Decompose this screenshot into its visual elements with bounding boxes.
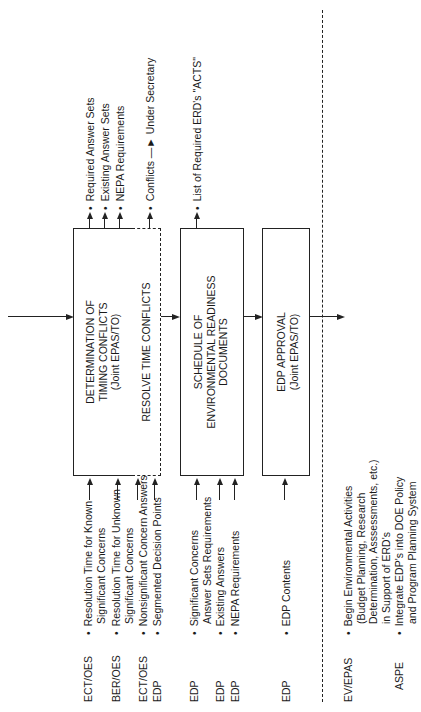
arrow-head: [87, 212, 93, 219]
org-label: EDP: [151, 680, 164, 702]
output-existing-answer-sets: Existing Answer Sets: [99, 103, 112, 210]
input-item: Resolution Time for Unknown Significant …: [110, 489, 135, 635]
arrow-head: [152, 478, 158, 485]
input-item: Nonsignificant Concern Answers: [137, 475, 150, 635]
connector-approval-results: [310, 316, 338, 317]
arrow-head: [232, 478, 238, 485]
arrow-head: [172, 314, 180, 320]
input-item: Significant Concerns Answer Sets Require…: [188, 497, 213, 635]
org-label: ECT/OES: [137, 656, 150, 702]
arrow-head: [102, 212, 108, 219]
result-integrate-edps: Integrate EDP's into DOE Policy and Prog…: [393, 477, 418, 635]
arrow-head: [194, 478, 200, 485]
org-label: EDP: [188, 680, 201, 702]
output-nepa-requirements: NEPA Requirements: [114, 106, 127, 210]
input-item: NEPA Requirements: [229, 531, 242, 635]
input-item: EDP Contents: [280, 560, 293, 635]
org-label: BER/OES: [110, 655, 123, 702]
org-label: ECT/OES: [82, 656, 95, 702]
arrow-head: [117, 212, 123, 219]
org-label: EDP: [280, 680, 293, 702]
approval-label: EDP APPROVAL (Joint EPAS/TO): [275, 252, 300, 452]
input-item: Existing Answers: [214, 547, 227, 635]
arrow-head: [337, 314, 345, 320]
separator-dashed-line: [322, 10, 323, 702]
result-org-label: EV/EPAS: [342, 658, 355, 702]
determination-label: DETERMINATION OF TIMING CONFLICTS (Joint…: [84, 252, 122, 452]
output-required-answer-sets: Required Answer Sets: [84, 97, 97, 210]
result-org-label: ASPE: [393, 662, 406, 690]
result-begin-activities: Begin Environmental Activities (Budget P…: [342, 459, 392, 635]
resolve-label: RESOLVE TIME CONFLICTS: [140, 252, 153, 452]
schedule-label: SCHEDULE OF ENVIRONMENTAL READINESS DOCU…: [192, 252, 230, 452]
arrow-head: [217, 478, 223, 485]
input-item: Segmented Decision Points: [151, 497, 164, 635]
output-conflicts: Conflicts —► Under Secretary: [144, 58, 157, 210]
output-list-of-erds: List of Required ERD's "ACTS": [191, 57, 204, 210]
org-label: EDP: [214, 680, 227, 702]
arrow-head: [194, 212, 200, 219]
arrow-head: [147, 212, 153, 219]
entry-arrow-line: [8, 316, 68, 317]
arrow-head: [87, 478, 93, 485]
input-item: Resolution Time for Known Significant Co…: [82, 501, 107, 635]
arrow-head: [282, 478, 288, 485]
arrow-right-icon: —►: [144, 137, 156, 158]
org-label: EDP: [229, 680, 242, 702]
arrow-head: [115, 478, 121, 485]
